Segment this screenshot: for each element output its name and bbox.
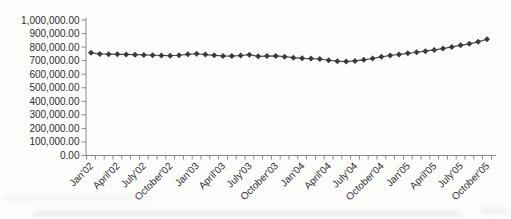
data-point-marker [106, 51, 112, 57]
y-tick-label: 800,000.00 [29, 42, 79, 53]
data-point-marker [176, 52, 182, 58]
data-point-marker [484, 36, 490, 42]
y-tick-label: 700,000.00 [29, 55, 79, 66]
x-tick-label: April'05 [407, 160, 438, 191]
data-point-marker [308, 56, 314, 62]
data-point-marker [238, 53, 244, 59]
data-point-marker [414, 49, 420, 55]
data-point-marker [361, 57, 367, 63]
data-point-marker [317, 56, 323, 62]
data-point-marker [440, 46, 446, 52]
chart-svg: 0.00100,000.00200,000.00300,000.00400,00… [0, 0, 511, 219]
data-point-marker [290, 55, 296, 61]
data-point-marker [370, 55, 376, 61]
data-point-marker [167, 53, 173, 59]
data-point-marker [422, 48, 428, 54]
data-point-marker [141, 52, 147, 58]
data-point-marker [378, 54, 384, 60]
data-point-marker [97, 51, 103, 57]
y-tick-label: 400,000.00 [29, 96, 79, 107]
data-point-marker [114, 51, 120, 57]
x-tick-label: April'04 [302, 160, 333, 191]
y-tick-label: 1,000,000.00 [21, 15, 80, 26]
data-point-marker [202, 52, 208, 58]
data-point-marker [396, 51, 402, 57]
data-point-marker [220, 53, 226, 59]
data-point-marker [123, 51, 129, 57]
data-point-marker [475, 39, 481, 45]
data-point-marker [405, 50, 411, 56]
data-point-marker [299, 55, 305, 61]
y-tick-label: 500,000.00 [29, 82, 79, 93]
data-point-marker [334, 58, 340, 64]
data-point-marker [282, 54, 288, 60]
y-tick-label: 100,000.00 [29, 136, 79, 147]
data-point-marker [158, 53, 164, 59]
data-point-marker [88, 50, 94, 56]
data-point-marker [194, 51, 200, 57]
line-chart: 0.00100,000.00200,000.00300,000.00400,00… [0, 0, 511, 219]
y-tick-label: 900,000.00 [29, 28, 79, 39]
y-tick-label: 0.00 [60, 150, 80, 161]
data-point-marker [273, 53, 279, 59]
data-point-marker [211, 52, 217, 58]
data-point-marker [229, 53, 235, 59]
data-point-marker [449, 44, 455, 50]
scanned-chart-page: 0.00100,000.00200,000.00300,000.00400,00… [0, 0, 511, 219]
data-point-marker [326, 57, 332, 63]
y-tick-label: 200,000.00 [29, 123, 79, 134]
data-point-marker [352, 58, 358, 64]
data-point-marker [150, 52, 156, 58]
data-point-marker [246, 52, 252, 58]
data-point-marker [466, 41, 472, 47]
data-point-marker [387, 53, 393, 59]
data-point-marker [185, 51, 191, 57]
y-tick-label: 300,000.00 [29, 109, 79, 120]
data-point-marker [255, 53, 261, 59]
data-point-marker [458, 42, 464, 48]
data-point-marker [264, 53, 270, 59]
x-tick-label: April'02 [91, 160, 122, 191]
data-point-marker [343, 59, 349, 65]
data-point-marker [431, 47, 437, 53]
y-tick-label: 600,000.00 [29, 69, 79, 80]
x-tick-label: April'03 [196, 160, 227, 191]
data-point-marker [132, 52, 138, 58]
